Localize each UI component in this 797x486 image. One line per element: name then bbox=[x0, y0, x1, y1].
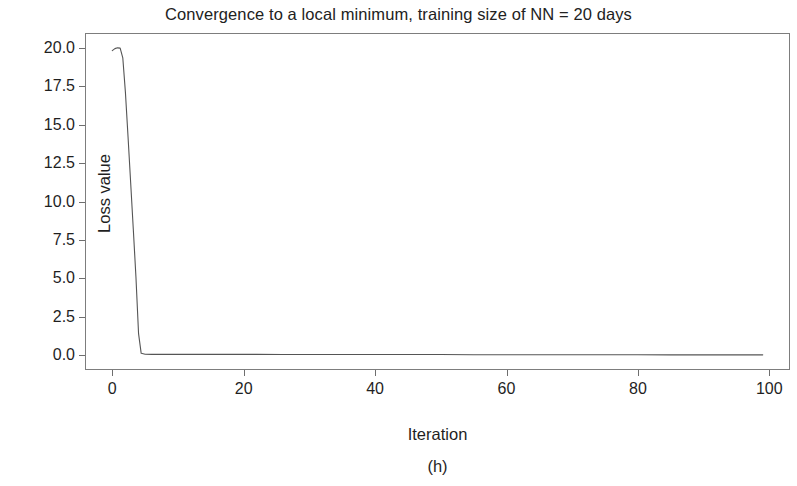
x-axis-label: Iteration bbox=[85, 425, 790, 444]
x-tick-label: 40 bbox=[335, 381, 415, 397]
x-tick-label: 100 bbox=[729, 381, 797, 397]
loss-curve-line bbox=[112, 48, 762, 355]
y-tick-label: 7.5 bbox=[3, 232, 75, 248]
y-axis-label: Loss value bbox=[95, 104, 114, 284]
x-tick-mark bbox=[112, 370, 113, 376]
x-tick-label: 20 bbox=[204, 381, 284, 397]
x-tick-mark bbox=[375, 370, 376, 376]
x-tick-mark bbox=[507, 370, 508, 376]
chart-title: Convergence to a local minimum, training… bbox=[0, 5, 797, 24]
figure-caption: (h) bbox=[85, 457, 790, 476]
y-tick-label: 15.0 bbox=[3, 117, 75, 133]
loss-curve-svg bbox=[86, 34, 789, 369]
x-tick-label: 60 bbox=[467, 381, 547, 397]
y-tick-label: 17.5 bbox=[3, 78, 75, 94]
y-tick-label: 0.0 bbox=[3, 347, 75, 363]
figure-panel: Convergence to a local minimum, training… bbox=[0, 0, 797, 486]
x-tick-mark bbox=[638, 370, 639, 376]
y-tick-label: 20.0 bbox=[3, 40, 75, 56]
y-tick-label: 2.5 bbox=[3, 309, 75, 325]
x-tick-label: 0 bbox=[72, 381, 152, 397]
x-tick-label: 80 bbox=[598, 381, 678, 397]
y-tick-label: 10.0 bbox=[3, 194, 75, 210]
y-tick-label: 5.0 bbox=[3, 270, 75, 286]
x-tick-mark bbox=[769, 370, 770, 376]
x-tick-mark bbox=[244, 370, 245, 376]
y-tick-label: 12.5 bbox=[3, 155, 75, 171]
plot-area: Loss value bbox=[85, 33, 790, 370]
